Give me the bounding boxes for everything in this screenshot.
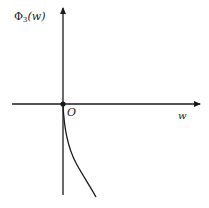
origin-label: O (67, 106, 76, 119)
y-axis-label-symbol: Φ (14, 10, 23, 23)
phi3-diagram: Φ3(w) O w (0, 0, 209, 208)
y-axis-label: Φ3(w) (14, 10, 46, 24)
diagram-canvas (0, 0, 209, 208)
x-axis-label: w (178, 110, 187, 121)
y-axis-label-argument: (w) (28, 10, 46, 23)
